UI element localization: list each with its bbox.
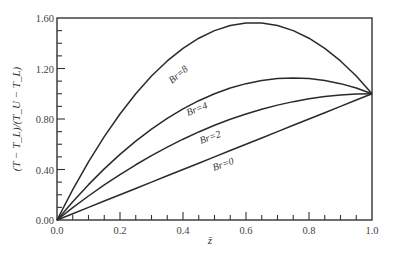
chart: 0.00.20.40.60.81.0 0.000.400.801.201.60 … <box>0 0 395 254</box>
y-tick-label: 1.20 <box>36 64 54 75</box>
y-tick-label: 0.00 <box>36 215 54 226</box>
x-tick-label: 0.4 <box>176 225 190 236</box>
x-tick-label: 0.2 <box>113 225 126 236</box>
x-axis-title: z̄ <box>207 234 213 246</box>
y-tick-label: 1.60 <box>36 13 54 24</box>
curve-br0 <box>57 94 372 220</box>
curve-label-br4: Br=4 <box>185 100 209 118</box>
x-tick-label: 0.8 <box>302 225 315 236</box>
curve-label-br0: Br=0 <box>211 155 235 173</box>
y-tick-label: 0.40 <box>36 165 54 176</box>
x-axis-ticks <box>73 212 357 220</box>
curve-br8 <box>57 23 372 220</box>
x-axis-tick-labels: 0.00.20.40.60.81.0 <box>50 225 378 236</box>
y-tick-label: 0.80 <box>36 114 54 125</box>
x-tick-label: 0.0 <box>50 225 63 236</box>
y-axis-tick-labels: 0.000.400.801.201.60 <box>36 13 54 226</box>
curve-label-br8: Br=8 <box>166 63 190 85</box>
x-tick-label: 0.6 <box>239 225 252 236</box>
curves <box>57 23 372 220</box>
y-axis-title: (T − T_L)/(T_U − T_L) <box>10 66 23 171</box>
x-tick-label: 1.0 <box>365 225 378 236</box>
curve-br4 <box>57 78 372 220</box>
y-axis-ticks <box>57 31 65 208</box>
